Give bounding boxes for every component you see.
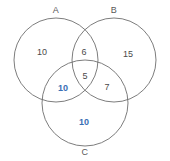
set-label-c: C [82,148,89,157]
set-label-a: A [53,6,59,15]
region-value-a-only: 10 [37,48,47,57]
set-label-b: B [111,6,117,15]
region-value-a-and-c: 10 [58,84,68,93]
region-value-c-only: 10 [79,118,89,127]
region-value-a-and-b: 6 [81,48,86,57]
region-value-a-and-b-and-c: 5 [82,72,87,81]
region-value-b-and-c: 7 [104,83,109,92]
region-value-b-only: 15 [123,50,133,59]
venn-circles-group [0,0,170,161]
venn-diagram: A B C 10 6 15 5 10 7 10 [0,0,170,161]
